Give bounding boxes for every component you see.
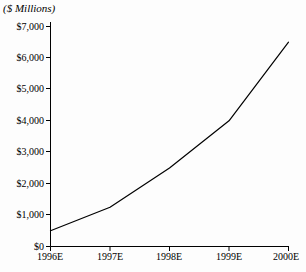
- x-tick-label-1997E: 1997E: [97, 251, 123, 262]
- x-tick-label-1996E: 1996E: [37, 251, 63, 262]
- chart-container: ($ Millions) $7,000 $6,000 $5,000 $4,000…: [0, 0, 306, 272]
- x-tick-label-1998E: 1998E: [156, 251, 182, 262]
- x-tick-label-2000E: 2000E: [273, 251, 299, 262]
- x-tick-label-1999E: 1999E: [216, 251, 242, 262]
- x-axis-tick-label-group: 1996E 1997E 1998E 1999E 2000E: [0, 0, 306, 272]
